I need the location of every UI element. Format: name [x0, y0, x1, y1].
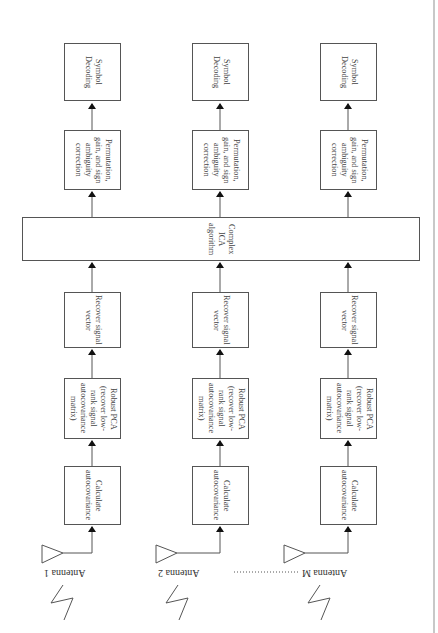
antenna-label-m: Antenna M	[302, 568, 347, 579]
robust-pca-block-2: Robust PCA (recover low- rank signal aut…	[192, 378, 249, 439]
robust-pca-block-m: Robust PCA (recover low- rank signal aut…	[320, 378, 377, 439]
symbol-decoding-block-m: Symbol Decoding	[320, 43, 377, 101]
antenna-label-1: Antenna 1	[44, 568, 85, 579]
permutation-correction-block-1: Permutation, gain, and sign ambiguity co…	[64, 130, 121, 190]
block-label: Recover signal vector	[83, 295, 103, 345]
permutation-correction-block-m: Permutation, gain, and sign ambiguity co…	[320, 130, 377, 190]
block-label: Symbol Decoding	[339, 56, 359, 88]
block-label: Robust PCA (recover low- rank signal aut…	[196, 383, 246, 433]
recover-signal-block-m: Recover signal vector	[320, 292, 377, 348]
block-label: Calculate autocovariance	[339, 470, 359, 520]
block-label: Calculate autocovariance	[83, 470, 103, 520]
block-label: Recover signal vector	[211, 295, 231, 345]
block-label: Permutation, gain, and sign ambiguity co…	[73, 137, 113, 183]
recover-signal-block-2: Recover signal vector	[192, 292, 249, 348]
block-label: Robust PCA (recover low- rank signal aut…	[68, 383, 118, 433]
block-label: Calculate autocovariance	[211, 470, 231, 520]
block-label: Robust PCA (recover low- rank signal aut…	[324, 383, 374, 433]
block-label: Symbol Decoding	[211, 56, 231, 88]
robust-pca-block-1: Robust PCA (recover low- rank signal aut…	[64, 378, 121, 439]
complex-ica-label: Complex ICA algorithm	[206, 223, 236, 255]
symbol-decoding-block-2: Symbol Decoding	[192, 43, 249, 101]
permutation-correction-block-2: Permutation, gain, and sign ambiguity co…	[192, 130, 249, 190]
symbol-decoding-block-1: Symbol Decoding	[64, 43, 121, 101]
block-label: Symbol Decoding	[83, 56, 103, 88]
block-label: Permutation, gain, and sign ambiguity co…	[201, 137, 241, 183]
block-label: Recover signal vector	[339, 295, 359, 345]
calc-autocovariance-block-1: Calculate autocovariance	[64, 466, 121, 525]
antenna-label-2: Antenna 2	[158, 568, 199, 579]
block-label: Permutation, gain, and sign ambiguity co…	[329, 137, 369, 183]
calc-autocovariance-block-m: Calculate autocovariance	[320, 466, 377, 525]
recover-signal-block-1: Recover signal vector	[64, 292, 121, 348]
complex-ica-block: Complex ICA algorithm	[22, 217, 420, 261]
calc-autocovariance-block-2: Calculate autocovariance	[192, 466, 249, 525]
